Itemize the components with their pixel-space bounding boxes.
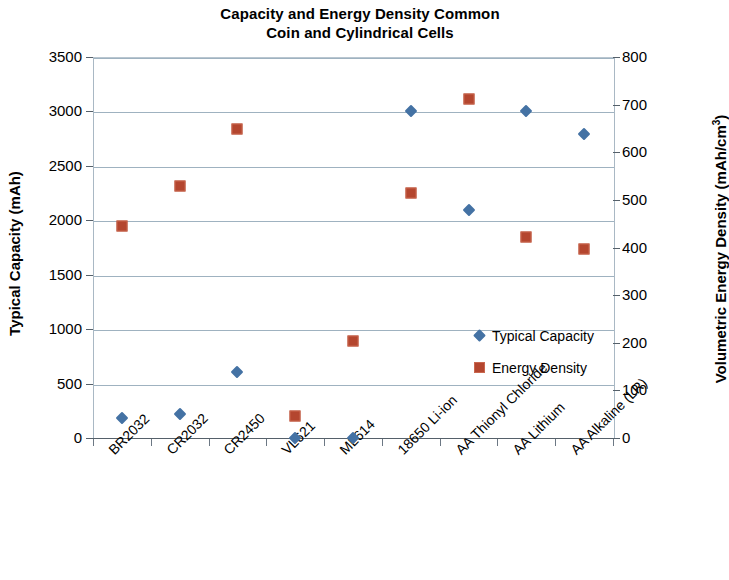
data-point	[116, 221, 127, 232]
y-axis-tick-labels: 0500100015002000250030003500	[0, 0, 82, 580]
x-axis-tick	[440, 439, 441, 446]
secondary-y-axis-tick	[613, 295, 620, 296]
legend-item-typical-capacity[interactable]: Typical Capacity	[470, 320, 620, 352]
data-point	[579, 243, 590, 254]
y-axis-tick	[86, 57, 93, 58]
x-axis-tick	[382, 439, 383, 446]
y-axis-tick-label: 1500	[4, 267, 82, 282]
secondary-y-axis-tick-label: 400	[622, 240, 647, 255]
secondary-y-axis-title-base: Volumetric Energy Density (mAh/cm	[712, 125, 729, 383]
y-axis-tick	[86, 384, 93, 385]
y-axis-tick	[86, 111, 93, 112]
x-axis-tick	[93, 439, 94, 446]
secondary-y-axis-tick	[613, 200, 620, 201]
legend-item-energy-density[interactable]: Energy Density	[470, 352, 620, 384]
gridline	[94, 58, 614, 59]
square-marker-icon	[470, 360, 492, 376]
secondary-y-axis-tick	[613, 248, 620, 249]
secondary-y-axis-tick	[613, 152, 620, 153]
y-axis-tick-label: 0	[4, 430, 82, 445]
y-axis-tick	[86, 275, 93, 276]
legend-label-typical-capacity: Typical Capacity	[492, 328, 594, 344]
x-axis-tick	[555, 439, 556, 446]
y-axis-tick	[86, 438, 93, 439]
secondary-y-axis-tick	[613, 390, 620, 391]
y-axis-tick-label: 3000	[4, 103, 82, 118]
y-axis-tick-label: 2500	[4, 158, 82, 173]
chart-title-line-2: Coin and Cylindrical Cells	[110, 23, 610, 42]
x-axis-tick	[613, 439, 614, 446]
y-axis-tick-label: 500	[4, 376, 82, 391]
y-axis-tick-label: 3500	[4, 49, 82, 64]
chart-title: Capacity and Energy Density Common Coin …	[110, 4, 610, 42]
data-point	[232, 124, 243, 135]
secondary-y-axis-tick-labels: 0100200300400500600700800	[622, 0, 672, 580]
data-point	[174, 180, 185, 191]
x-axis-tick	[497, 439, 498, 446]
secondary-y-axis-tick	[613, 105, 620, 106]
secondary-y-axis-tick	[613, 438, 620, 439]
gridline	[94, 276, 614, 277]
secondary-y-axis-tick-label: 200	[622, 335, 647, 350]
secondary-y-axis-tick	[613, 57, 620, 58]
secondary-y-axis-tick-label: 500	[622, 192, 647, 207]
secondary-y-axis-title: Volumetric Energy Density (mAh/cm3)	[711, 114, 729, 384]
gridline	[94, 221, 614, 222]
y-axis-tick	[86, 220, 93, 221]
data-point	[463, 94, 474, 105]
x-axis-tick	[209, 439, 210, 446]
y-axis-tick-label: 1000	[4, 321, 82, 336]
secondary-y-axis-title-close: )	[712, 115, 729, 120]
data-point	[348, 336, 359, 347]
chart-title-line-1: Capacity and Energy Density Common	[220, 5, 499, 22]
secondary-y-axis-tick-label: 600	[622, 144, 647, 159]
data-point	[290, 410, 301, 421]
legend-label-energy-density: Energy Density	[492, 360, 587, 376]
diamond-marker-icon	[470, 328, 492, 344]
x-axis-tick	[324, 439, 325, 446]
secondary-y-axis-tick-label: 0	[622, 430, 630, 445]
gridline	[94, 112, 614, 113]
secondary-y-axis-title-exponent: 3	[711, 120, 722, 126]
x-axis-tick	[266, 439, 267, 446]
gridline	[94, 167, 614, 168]
secondary-y-axis-tick-label: 700	[622, 97, 647, 112]
y-axis-tick	[86, 166, 93, 167]
x-axis-tick	[151, 439, 152, 446]
y-axis-tick	[86, 329, 93, 330]
y-axis-tick-label: 2000	[4, 212, 82, 227]
secondary-y-axis-tick-label: 300	[622, 287, 647, 302]
chart-legend: Typical Capacity Energy Density	[470, 320, 620, 384]
secondary-y-axis-tick-label: 800	[622, 49, 647, 64]
data-point	[405, 188, 416, 199]
data-point	[521, 231, 532, 242]
